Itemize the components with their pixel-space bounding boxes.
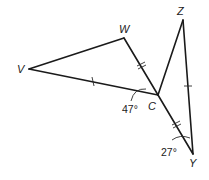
vertex-label-z: Z [176, 5, 185, 17]
vertex-label-v: V [17, 63, 26, 75]
angle-arc-y [172, 136, 190, 140]
segment-wc [124, 38, 158, 95]
angle-label-47: 47° [122, 103, 138, 115]
angle-label-27: 27° [161, 146, 177, 158]
vertex-label-w: W [119, 23, 131, 35]
segment-cz [158, 20, 183, 95]
segment-vw [29, 38, 124, 69]
triangle-diagram: V W C Z Y 47° 27° [0, 0, 209, 180]
vertex-label-y: Y [189, 157, 197, 169]
segment-zy [183, 20, 193, 154]
vertex-label-c: C [148, 100, 156, 112]
